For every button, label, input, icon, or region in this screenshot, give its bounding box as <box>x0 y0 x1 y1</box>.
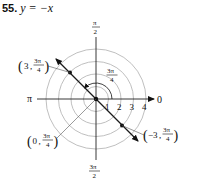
point-label-upper: ( 3 , 3π 4 ) <box>18 57 50 75</box>
svg-text:4: 4 <box>110 76 114 84</box>
svg-text:−3: −3 <box>148 130 158 140</box>
point-label-lower: ( −3 , 3π 4 ) <box>143 126 179 144</box>
graph-line-y-equals-neg-x <box>56 59 96 99</box>
leader-lower <box>122 126 144 136</box>
label-3pi-over-2: 3π 2 <box>89 163 100 180</box>
svg-text:,: , <box>30 61 32 71</box>
svg-text:3π: 3π <box>107 67 115 75</box>
svg-text:0: 0 <box>33 136 38 146</box>
svg-text:,: , <box>159 130 161 140</box>
svg-text:): ) <box>45 59 50 75</box>
ring-labels: 1 2 3 4 <box>105 102 147 112</box>
svg-text:2: 2 <box>117 102 122 112</box>
leader-origin <box>57 99 96 138</box>
label-zero: 0 <box>157 94 162 105</box>
svg-text:2: 2 <box>93 172 97 180</box>
svg-text:4: 4 <box>142 102 147 112</box>
svg-text:3π: 3π <box>90 163 98 171</box>
polar-graph: 0 π π 2 3π 2 1 2 3 4 3π 4 ( 3 , 3π 4 <box>0 0 199 191</box>
svg-text:3: 3 <box>24 61 29 71</box>
svg-text:3π: 3π <box>34 57 42 65</box>
svg-text:): ) <box>54 134 59 150</box>
svg-text:3π: 3π <box>163 126 171 134</box>
svg-text:3π: 3π <box>43 132 51 140</box>
svg-text:): ) <box>174 128 179 144</box>
svg-text:,: , <box>39 136 41 146</box>
svg-text:(: ( <box>18 59 23 75</box>
label-pi: π <box>27 93 32 104</box>
svg-text:4: 4 <box>166 135 170 143</box>
svg-text:4: 4 <box>37 66 41 74</box>
svg-text:3: 3 <box>130 102 135 112</box>
point-label-origin: ( 0 , 3π 4 ) <box>27 132 59 150</box>
angle-label-3pi-over-4: 3π 4 <box>107 67 118 84</box>
label-pi-over-2: π 2 <box>92 19 100 36</box>
svg-text:π: π <box>93 19 97 27</box>
svg-text:(: ( <box>27 134 32 150</box>
svg-text:2: 2 <box>94 28 98 36</box>
svg-text:4: 4 <box>46 141 50 149</box>
